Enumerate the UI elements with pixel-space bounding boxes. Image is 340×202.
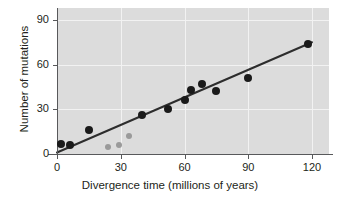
y-axis-tick bbox=[53, 154, 57, 155]
gridline-vertical bbox=[185, 8, 186, 154]
gridline-horizontal bbox=[57, 65, 329, 66]
y-axis-tick-label: 30 bbox=[25, 103, 49, 114]
x-axis-tick bbox=[57, 155, 58, 159]
chart-figure: Divergence time (millions of years) Numb… bbox=[0, 0, 340, 202]
x-axis-tick-label: 90 bbox=[233, 161, 263, 174]
y-axis-tick bbox=[53, 109, 57, 110]
y-axis-tick bbox=[53, 20, 57, 21]
x-axis-tick-label: 0 bbox=[42, 161, 72, 174]
gridline-vertical bbox=[121, 8, 122, 154]
x-axis-label: Divergence time (millions of years) bbox=[0, 179, 340, 191]
x-axis-tick bbox=[312, 155, 313, 159]
y-axis-tick bbox=[53, 65, 57, 66]
x-axis-tick bbox=[185, 155, 186, 159]
y-axis-tick-label: 90 bbox=[25, 14, 49, 25]
y-axis-tick-label: 0 bbox=[25, 148, 49, 159]
plot-area bbox=[57, 8, 329, 154]
gridline-vertical bbox=[312, 8, 313, 154]
y-axis-tick-label: 60 bbox=[25, 59, 49, 70]
x-axis-tick-label: 60 bbox=[170, 161, 200, 174]
x-axis-tick bbox=[248, 155, 249, 159]
gridline-horizontal bbox=[57, 20, 329, 21]
x-axis-tick-label: 30 bbox=[106, 161, 136, 174]
gridline-horizontal bbox=[57, 109, 329, 110]
y-axis-line bbox=[57, 8, 58, 155]
x-axis-tick bbox=[121, 155, 122, 159]
x-axis-line bbox=[48, 154, 333, 155]
gridline-vertical bbox=[248, 8, 249, 154]
x-axis-tick-label: 120 bbox=[297, 161, 327, 174]
